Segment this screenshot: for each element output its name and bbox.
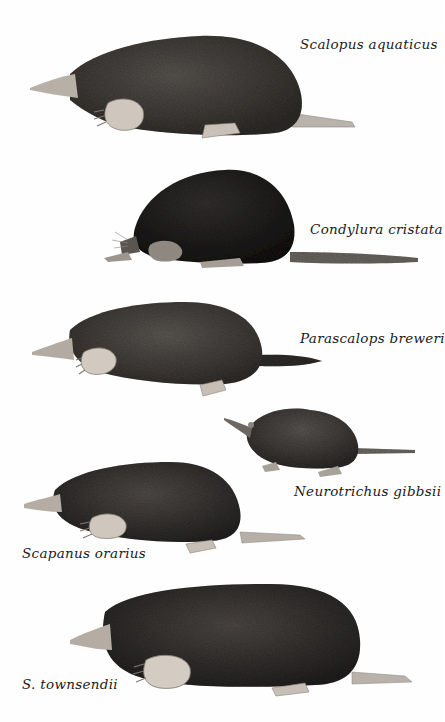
tail — [240, 532, 305, 543]
mole-parascalops-breweri — [32, 302, 322, 396]
mole-s-townsendii — [70, 584, 412, 696]
body — [247, 409, 358, 469]
caption-scalopus-aquaticus: Scalopus aquaticus — [300, 38, 438, 52]
snout — [224, 418, 252, 438]
tail — [352, 672, 412, 684]
caption-scapanus-orarius: Scapanus orarius — [22, 547, 146, 561]
mole-neurotrichus-gibbsii — [224, 409, 415, 477]
snout — [32, 338, 74, 360]
front-foot — [104, 252, 132, 262]
fore-paw — [89, 514, 126, 539]
caption-s-townsendii: S. townsendii — [22, 678, 118, 692]
body — [53, 462, 240, 542]
snout — [24, 494, 62, 512]
mole-condylura-cristata — [104, 170, 418, 268]
tail — [290, 252, 418, 264]
caption-neurotrichus-gibbsii: Neurotrichus gibbsii — [294, 485, 441, 499]
tail — [258, 355, 322, 367]
fore-paw — [105, 99, 144, 130]
snout — [30, 74, 78, 98]
fore-paw — [81, 348, 116, 374]
hind-foot — [202, 123, 240, 138]
fore-paw — [144, 655, 191, 688]
mole-scapanus-orarius — [24, 462, 305, 553]
body — [70, 36, 302, 135]
hind-foot — [186, 540, 216, 553]
snout — [70, 624, 112, 650]
eye — [248, 422, 254, 428]
tail — [352, 448, 415, 454]
caption-condylura-cristata: Condylura cristata — [310, 223, 443, 237]
caption-parascalops-breweri: Parascalops breweri — [300, 332, 445, 346]
